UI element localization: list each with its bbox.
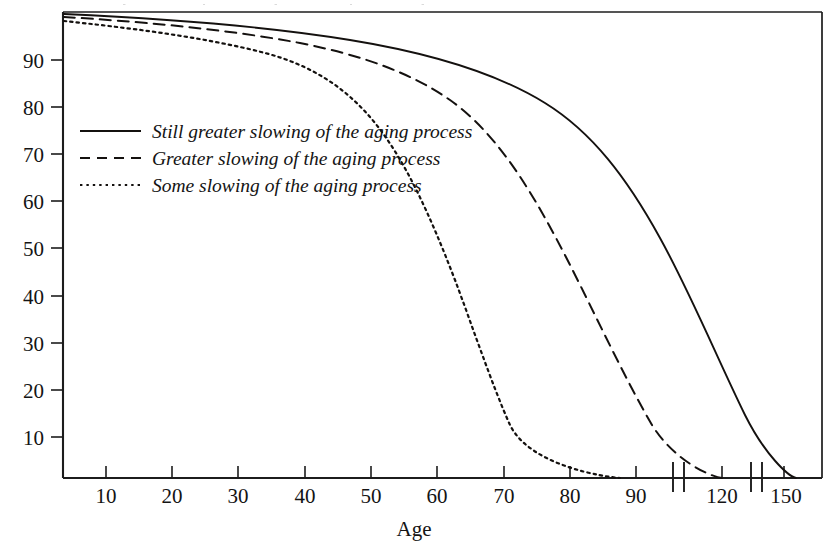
y-tick-label-40: 40 bbox=[23, 285, 44, 309]
x-tick-label-60: 60 bbox=[427, 484, 448, 508]
y-tick-label-60: 60 bbox=[23, 190, 44, 214]
x-tick-label-30: 30 bbox=[228, 484, 249, 508]
x-tick-label-20: 20 bbox=[162, 484, 183, 508]
survival-curve-figure: 90 80 70 60 50 40 30 20 10 bbox=[0, 0, 828, 548]
legend-label-greater-slowing: Greater slowing of the aging process bbox=[152, 148, 440, 169]
x-tick-label-90: 90 bbox=[626, 484, 647, 508]
y-tick-label-90: 90 bbox=[23, 49, 44, 73]
x-tick-label-40: 40 bbox=[295, 484, 316, 508]
x-tick-label-150: 150 bbox=[770, 484, 802, 508]
y-tick-label-20: 20 bbox=[23, 379, 44, 403]
legend-item-still-greater-slowing: Still greater slowing of the aging proce… bbox=[80, 121, 472, 142]
legend-item-greater-slowing: Greater slowing of the aging process bbox=[80, 148, 440, 169]
x-axis-ticks bbox=[106, 466, 784, 478]
y-tick-label-50: 50 bbox=[23, 237, 44, 261]
y-tick-label-30: 30 bbox=[23, 332, 44, 356]
chart-canvas: 90 80 70 60 50 40 30 20 10 bbox=[0, 0, 828, 548]
y-tick-label-70: 70 bbox=[23, 143, 44, 167]
y-axis-ticks bbox=[51, 60, 63, 437]
curve-some-slowing bbox=[64, 21, 620, 478]
x-tick-label-80: 80 bbox=[560, 484, 581, 508]
x-axis-tick-labels: 10 20 30 40 50 60 70 80 90 120 150 bbox=[96, 484, 802, 508]
y-tick-label-80: 80 bbox=[23, 96, 44, 120]
x-tick-label-50: 50 bbox=[361, 484, 382, 508]
curve-still-greater-slowing bbox=[64, 14, 796, 478]
curve-greater-slowing bbox=[64, 17, 722, 478]
legend-item-some-slowing: Some slowing of the aging process bbox=[80, 175, 422, 196]
legend: Still greater slowing of the aging proce… bbox=[80, 121, 472, 196]
x-tick-label-120: 120 bbox=[706, 484, 738, 508]
y-tick-label-10: 10 bbox=[23, 426, 44, 450]
legend-label-some-slowing: Some slowing of the aging process bbox=[152, 175, 422, 196]
x-tick-label-70: 70 bbox=[494, 484, 515, 508]
legend-label-still-greater-slowing: Still greater slowing of the aging proce… bbox=[152, 121, 472, 142]
x-axis-title: Age bbox=[397, 517, 432, 541]
x-tick-label-10: 10 bbox=[96, 484, 117, 508]
y-axis-tick-labels: 90 80 70 60 50 40 30 20 10 bbox=[23, 49, 44, 450]
